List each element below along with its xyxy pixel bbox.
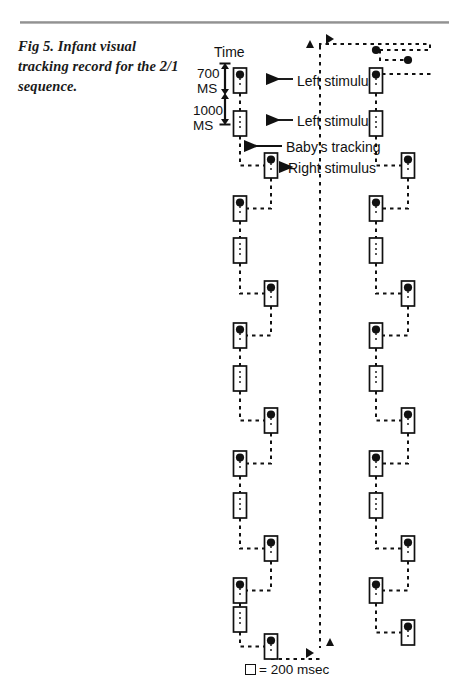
tracking-paths (240, 44, 432, 659)
stimulus-dot (236, 453, 244, 461)
figure-root: Fig 5. Infant visual tracking record for… (0, 0, 449, 690)
stimulus-dot (267, 410, 275, 418)
stimulus-boxes (234, 46, 415, 659)
stimulus-dot (236, 198, 244, 206)
stimulus-dot (404, 410, 412, 418)
stimulus-box (234, 366, 247, 391)
stimulus-dot (267, 155, 275, 163)
stimulus-dot (267, 283, 275, 291)
stimulus-dot (267, 636, 275, 644)
stimulus-box (370, 238, 383, 263)
tracking-plot (0, 0, 449, 690)
stimulus-dot (236, 70, 244, 78)
stimulus-box (234, 111, 247, 136)
stimulus-dot (404, 622, 412, 630)
stimulus-dot (372, 453, 380, 461)
stimulus-dot (372, 70, 380, 78)
stimulus-dot (404, 56, 412, 64)
stimulus-dot (404, 538, 412, 546)
stimulus-dot (236, 580, 244, 588)
stimulus-dot (372, 325, 380, 333)
stimulus-dot (267, 538, 275, 546)
stimulus-box (234, 493, 247, 518)
stimulus-box (234, 238, 247, 263)
stimulus-box (370, 493, 383, 518)
stimulus-dot (404, 283, 412, 291)
stimulus-dot (372, 198, 380, 206)
stimulus-box (234, 607, 247, 632)
stimulus-dot (236, 325, 244, 333)
stimulus-box (370, 366, 383, 391)
stimulus-dot (372, 580, 380, 588)
stimulus-dot (372, 46, 380, 54)
stimulus-box (370, 111, 383, 136)
stimulus-dot (404, 155, 412, 163)
